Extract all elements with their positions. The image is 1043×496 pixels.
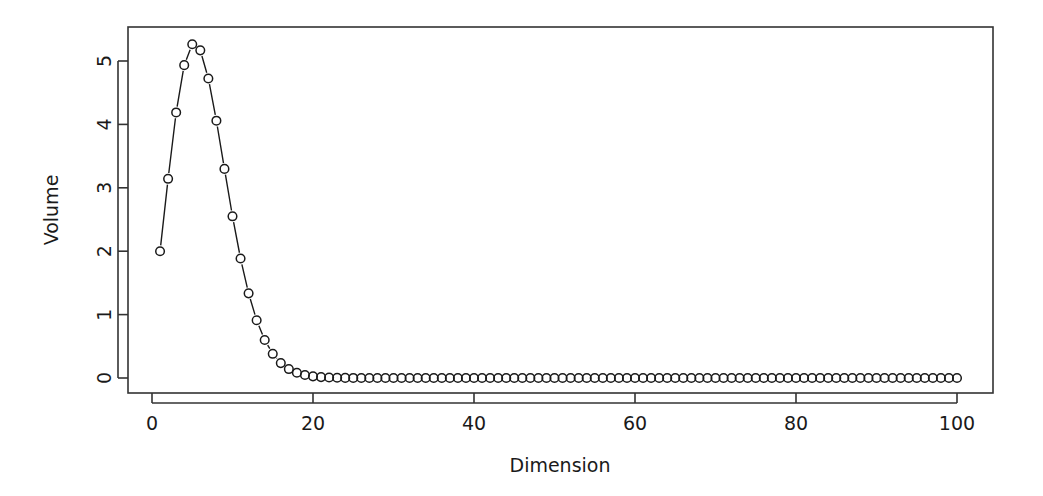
y-tick-label: 1 <box>93 309 115 321</box>
nball-volume-plot: 012345 020406080100 Dimension Volume <box>0 0 1043 496</box>
y-tick-label: 4 <box>93 118 115 130</box>
x-tick-label: 60 <box>623 412 647 434</box>
chart-figure: 012345 020406080100 Dimension Volume <box>0 0 1043 496</box>
y-tick-label: 2 <box>93 245 115 257</box>
x-tick-label: 20 <box>301 412 325 434</box>
x-axis-title: Dimension <box>510 454 611 476</box>
y-tick-label: 5 <box>93 55 115 67</box>
x-tick-label: 0 <box>146 412 158 434</box>
x-tick-label: 100 <box>939 412 975 434</box>
y-axis-title: Volume <box>40 175 62 246</box>
y-tick-label: 0 <box>93 372 115 384</box>
y-tick-label: 3 <box>93 182 115 194</box>
x-tick-label: 80 <box>784 412 808 434</box>
x-tick-label: 40 <box>462 412 486 434</box>
